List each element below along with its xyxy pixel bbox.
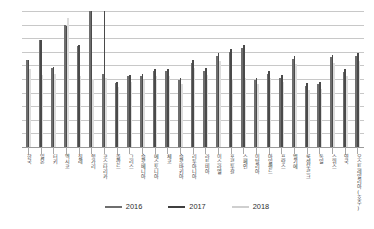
label-cell: 이탈리아 bbox=[250, 154, 263, 200]
bar-2018 bbox=[207, 75, 209, 147]
x-axis-tick bbox=[142, 147, 143, 154]
legend-item-2016[interactable]: 2016 bbox=[105, 203, 142, 210]
x-axis-label: 영국 bbox=[343, 154, 348, 164]
bar-group bbox=[98, 11, 111, 147]
bar-2018 bbox=[333, 63, 335, 147]
bar-group bbox=[351, 11, 364, 147]
x-axis-label: 리투아니아 bbox=[191, 154, 196, 179]
x-axis-label: 이스라엘 bbox=[216, 154, 221, 174]
bar-2018 bbox=[283, 82, 285, 147]
label-cell: 헝가리 bbox=[85, 154, 98, 200]
label-cell: 코스타리카 bbox=[98, 154, 111, 200]
bar-2018 bbox=[143, 80, 145, 147]
bar-2018 bbox=[295, 64, 297, 147]
tick-cell bbox=[35, 147, 48, 154]
bar-2018 bbox=[42, 75, 44, 147]
bar-group bbox=[161, 11, 174, 147]
x-axis-tick bbox=[193, 147, 194, 154]
tick-cell bbox=[149, 147, 162, 154]
legend-item-2018[interactable]: 2018 bbox=[232, 203, 269, 210]
bar-group bbox=[22, 11, 35, 147]
x-axis-tick bbox=[205, 147, 206, 154]
bar-group bbox=[136, 11, 149, 147]
bar-2018 bbox=[359, 61, 361, 147]
bar-group bbox=[339, 11, 352, 147]
bar-2018 bbox=[169, 76, 171, 147]
bar-2018 bbox=[346, 76, 348, 147]
x-axis-tick bbox=[104, 147, 105, 154]
x-axis-label: 프랑스 bbox=[279, 154, 284, 169]
label-cell: 독일 bbox=[313, 154, 326, 200]
tick-cell bbox=[22, 147, 35, 154]
bar-group bbox=[225, 11, 238, 147]
bar-2018 bbox=[131, 82, 133, 147]
tick-cell bbox=[111, 147, 124, 154]
label-cell: 스페인 bbox=[237, 154, 250, 200]
x-axis-label: 터키 bbox=[51, 154, 56, 164]
tick-cell bbox=[60, 147, 73, 154]
x-axis-tick bbox=[41, 147, 42, 154]
x-axis-label: 아일랜드 bbox=[267, 154, 272, 174]
label-cell: 스위스 bbox=[326, 154, 339, 200]
bar-group bbox=[187, 11, 200, 147]
x-axis-tick bbox=[294, 147, 295, 154]
tick-cell bbox=[161, 147, 174, 154]
bars-layer bbox=[22, 11, 364, 147]
legend-item-2017[interactable]: 2017 bbox=[168, 203, 205, 210]
tick-cell bbox=[98, 147, 111, 154]
label-cell: 슬로바키아 bbox=[174, 154, 187, 200]
plot-area bbox=[22, 11, 364, 147]
label-cell: 칠레 bbox=[73, 154, 86, 200]
label-cell: 룩셈부르크 bbox=[301, 154, 314, 200]
x-axis-tick bbox=[231, 147, 232, 154]
x-axis-label: 포르투갈 bbox=[229, 154, 234, 174]
label-cell: 그리스 bbox=[123, 154, 136, 200]
bar-2018 bbox=[29, 69, 31, 147]
x-axis-tick bbox=[269, 147, 270, 154]
chart-legend: 201620172018 bbox=[0, 203, 374, 210]
legend-line-icon bbox=[168, 206, 185, 208]
x-axis-label: 헝가리 bbox=[89, 154, 94, 169]
bar-group bbox=[250, 11, 263, 147]
bar-2018 bbox=[156, 76, 158, 147]
bar-group bbox=[212, 11, 225, 147]
bar-2018 bbox=[118, 87, 120, 147]
bar-2018 bbox=[92, 79, 94, 147]
bar-group bbox=[288, 11, 301, 147]
x-axis-tick bbox=[79, 147, 80, 154]
label-cell: 터키 bbox=[47, 154, 60, 200]
x-axis-tick bbox=[167, 147, 168, 154]
bar-group bbox=[326, 11, 339, 147]
bar-group bbox=[301, 11, 314, 147]
label-cell: 벨기에 bbox=[288, 154, 301, 200]
tick-cell bbox=[199, 147, 212, 154]
tick-cell bbox=[326, 147, 339, 154]
x-axis-tick bbox=[243, 147, 244, 154]
tick-cell bbox=[47, 147, 60, 154]
label-cell: 멕시코 bbox=[60, 154, 73, 200]
bar-2018 bbox=[257, 84, 259, 147]
x-axis-labels: 한국일본터키멕시코칠레헝가리코스타리카폴란드그리스슬로베니아에스토니아체코슬로바… bbox=[22, 154, 364, 200]
x-axis-ticks bbox=[22, 147, 364, 154]
bar-2018 bbox=[67, 18, 69, 147]
x-axis-tick bbox=[53, 147, 54, 154]
tick-cell bbox=[263, 147, 276, 154]
bar-2018 bbox=[105, 78, 107, 147]
x-axis-tick bbox=[91, 147, 92, 154]
label-cell: 영국 bbox=[339, 154, 352, 200]
x-axis-label: 슬로베니아 bbox=[140, 154, 145, 179]
x-axis-label: 독일 bbox=[317, 154, 322, 164]
x-axis-tick bbox=[345, 147, 346, 154]
legend-label: 2017 bbox=[189, 203, 205, 210]
label-cell: 이스라엘 bbox=[212, 154, 225, 200]
bar-group bbox=[73, 11, 86, 147]
x-axis-tick bbox=[28, 147, 29, 154]
legend-label: 2016 bbox=[126, 203, 142, 210]
bar-2018 bbox=[54, 74, 56, 147]
legend-line-icon bbox=[232, 206, 249, 208]
x-axis-label: 에스토니아 bbox=[153, 154, 158, 179]
bar-2018 bbox=[232, 79, 234, 147]
label-cell: 라트비아 bbox=[199, 154, 212, 200]
tick-cell bbox=[313, 147, 326, 154]
x-axis-tick bbox=[307, 147, 308, 154]
